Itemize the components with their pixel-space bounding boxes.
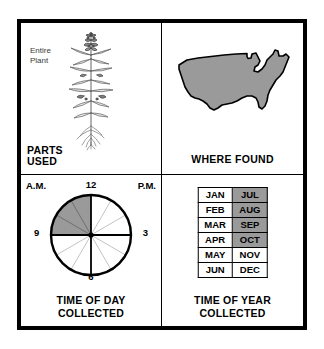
quadrant-time-of-year: JANJULFEBAUGMARSEPAPROCTMAYNOVJUNDEC TIM… bbox=[162, 175, 303, 327]
quadrant-grid: Entire Plant PARTS USED WHERE FOUND A.M.… bbox=[21, 23, 303, 326]
month-cell-mar: MAR bbox=[198, 217, 233, 232]
clock-diagram bbox=[41, 178, 141, 283]
month-table: JANJULFEBAUGMARSEPAPROCTMAYNOVJUNDEC bbox=[197, 187, 268, 278]
parts-used-caption: PARTS USED bbox=[27, 145, 63, 168]
quadrant-time-of-day: A.M. P.M. bbox=[21, 175, 162, 327]
clock-hour-9: 9 bbox=[34, 227, 39, 238]
month-cell-nov: NOV bbox=[233, 247, 268, 262]
table-row: JANJUL bbox=[198, 187, 268, 202]
time-of-day-caption: TIME OF DAY COLLECTED bbox=[21, 294, 161, 319]
month-cell-oct: OCT bbox=[233, 232, 268, 247]
time-of-year-caption: TIME OF YEAR COLLECTED bbox=[162, 294, 303, 319]
table-row: MARSEP bbox=[198, 217, 268, 232]
month-cell-jun: JUN bbox=[198, 262, 233, 277]
table-row: FEBAUG bbox=[198, 202, 268, 217]
month-cell-jul: JUL bbox=[233, 187, 268, 202]
month-cell-apr: APR bbox=[198, 232, 233, 247]
table-row: MAYNOV bbox=[198, 247, 268, 262]
entire-plant-illustration bbox=[56, 27, 126, 152]
where-found-caption: WHERE FOUND bbox=[162, 153, 303, 165]
month-cell-may: MAY bbox=[198, 247, 233, 262]
month-cell-feb: FEB bbox=[198, 202, 233, 217]
reference-card: Entire Plant PARTS USED WHERE FOUND A.M.… bbox=[17, 19, 307, 330]
quadrant-where-found: WHERE FOUND bbox=[162, 23, 303, 175]
clock-hour-6: 6 bbox=[88, 271, 93, 282]
month-cell-jan: JAN bbox=[198, 187, 233, 202]
entire-plant-label: Entire Plant bbox=[30, 46, 51, 66]
month-cell-dec: DEC bbox=[233, 262, 268, 277]
united-states-map bbox=[172, 43, 294, 121]
month-cell-aug: AUG bbox=[233, 202, 268, 217]
quadrant-parts-used: Entire Plant PARTS USED bbox=[21, 23, 162, 175]
table-row: JUNDEC bbox=[198, 262, 268, 277]
clock-hour-12: 12 bbox=[86, 179, 97, 190]
month-cell-sep: SEP bbox=[233, 217, 268, 232]
table-row: APROCT bbox=[198, 232, 268, 247]
clock-hour-3: 3 bbox=[143, 227, 148, 238]
